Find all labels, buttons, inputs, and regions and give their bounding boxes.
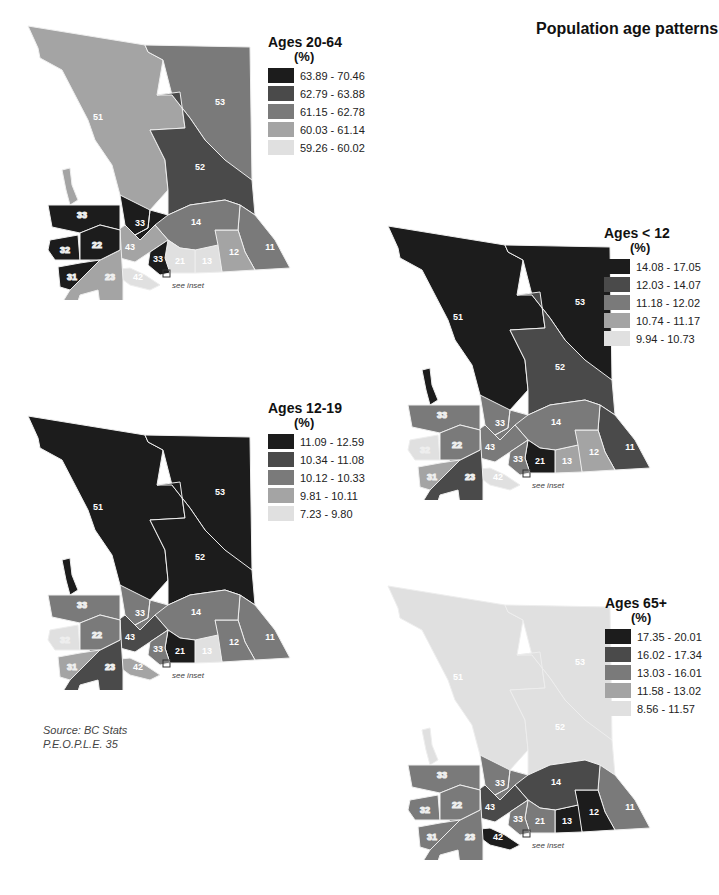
svg-text:21: 21 (535, 816, 545, 826)
legend-label: 12.03 - 14.07 (636, 279, 701, 291)
legend-swatch (605, 701, 631, 716)
svg-text:33: 33 (495, 418, 505, 428)
legend-label: 60.03 - 61.14 (300, 124, 365, 136)
svg-text:12: 12 (229, 637, 239, 647)
svg-text:53: 53 (575, 657, 585, 667)
svg-text:14: 14 (551, 417, 561, 427)
svg-text:23: 23 (465, 472, 475, 482)
legend-swatch (268, 434, 294, 449)
legend-swatch (268, 104, 294, 119)
svg-text:14: 14 (191, 607, 201, 617)
region-51-island (422, 368, 438, 405)
svg-text:33: 33 (135, 608, 145, 618)
legend-unit: (%) (631, 610, 702, 625)
legend-title: Ages 20-64 (268, 34, 365, 50)
legend-item: 8.56 - 11.57 (605, 700, 702, 717)
legend-swatch (268, 86, 294, 101)
legend-label: 63.89 - 70.46 (300, 70, 365, 82)
legend-label: 9.94 - 10.73 (636, 333, 695, 345)
svg-text:32: 32 (420, 445, 430, 455)
legend-unit: (%) (294, 415, 365, 430)
svg-text:see inset: see inset (532, 481, 565, 490)
legend-item: 9.94 - 10.73 (604, 330, 701, 347)
legend-swatch (604, 313, 630, 328)
legend-item: 10.34 - 11.08 (268, 451, 365, 468)
svg-text:22: 22 (92, 630, 102, 640)
svg-text:31: 31 (67, 662, 77, 672)
svg-text:13: 13 (202, 646, 212, 656)
svg-text:22: 22 (452, 440, 462, 450)
legend-title: Ages 12-19 (268, 400, 365, 416)
legend-label: 8.56 - 11.57 (637, 703, 695, 715)
svg-text:32: 32 (420, 805, 430, 815)
legend-swatch (268, 488, 294, 503)
legend-label: 62.79 - 63.88 (300, 88, 365, 100)
svg-text:12: 12 (589, 447, 599, 457)
svg-text:42: 42 (133, 272, 143, 282)
svg-text:43: 43 (125, 632, 135, 642)
legend-ages-20-64: Ages 20-64 (%) 63.89 - 70.4662.79 - 63.8… (268, 34, 365, 157)
legend-item: 14.08 - 17.05 (604, 258, 701, 275)
region-51-island (62, 558, 78, 595)
legend-item: 60.03 - 61.14 (268, 121, 365, 138)
svg-text:13: 13 (562, 816, 572, 826)
svg-text:11: 11 (625, 442, 635, 452)
legend-label: 10.34 - 11.08 (300, 454, 364, 466)
legend-label: 11.58 - 13.02 (637, 685, 701, 697)
legend-label: 61.15 - 62.78 (300, 106, 365, 118)
svg-text:33: 33 (153, 254, 163, 264)
legend-label: 9.81 - 10.11 (300, 490, 358, 502)
legend-item: 61.15 - 62.78 (268, 103, 365, 120)
svg-text:13: 13 (202, 256, 212, 266)
svg-text:23: 23 (105, 662, 115, 672)
legend-ages-12-19: Ages 12-19 (%) 11.09 - 12.5910.34 - 11.0… (268, 400, 365, 523)
svg-text:52: 52 (195, 552, 205, 562)
region-51-island (62, 168, 78, 205)
svg-text:21: 21 (535, 456, 545, 466)
svg-text:53: 53 (575, 297, 585, 307)
legend-swatch (268, 470, 294, 485)
legend-label: 16.02 - 17.34 (637, 649, 702, 661)
legend-title: Ages 65+ (605, 595, 702, 611)
legend-ages-65-plus: Ages 65+ (%) 17.35 - 20.0116.02 - 17.341… (605, 595, 702, 718)
svg-text:43: 43 (485, 442, 495, 452)
svg-text:22: 22 (452, 800, 462, 810)
legend-swatch (604, 331, 630, 346)
region-51-island (422, 728, 438, 765)
svg-text:43: 43 (125, 242, 135, 252)
page-title: Population age patterns (536, 20, 718, 38)
svg-text:21: 21 (175, 646, 185, 656)
legend-unit: (%) (294, 49, 365, 64)
legend-swatch (268, 506, 294, 521)
svg-text:22: 22 (92, 240, 102, 250)
legend-swatch (268, 452, 294, 467)
legend-unit: (%) (630, 240, 701, 255)
legend-label: 17.35 - 20.01 (637, 631, 702, 643)
legend-item: 62.79 - 63.88 (268, 85, 365, 102)
svg-text:51: 51 (93, 502, 103, 512)
legend-swatch (604, 295, 630, 310)
svg-text:51: 51 (453, 312, 463, 322)
svg-text:51: 51 (453, 672, 463, 682)
svg-text:42: 42 (493, 472, 503, 482)
legend-item: 59.26 - 60.02 (268, 139, 365, 156)
legend-label: 7.23 - 9.80 (300, 508, 353, 520)
legend-label: 10.74 - 11.17 (636, 315, 700, 327)
svg-text:51: 51 (93, 112, 103, 122)
legend-swatch (268, 140, 294, 155)
svg-text:11: 11 (625, 802, 635, 812)
legend-swatch (605, 647, 631, 662)
svg-text:33: 33 (513, 454, 523, 464)
legend-item: 12.03 - 14.07 (604, 276, 701, 293)
svg-text:31: 31 (427, 472, 437, 482)
svg-text:33: 33 (77, 210, 87, 220)
legend-label: 13.03 - 16.01 (637, 667, 702, 679)
source-line: Source: BC Stats (43, 723, 127, 737)
svg-text:see inset: see inset (172, 281, 205, 290)
svg-text:23: 23 (465, 832, 475, 842)
legend-item: 11.58 - 13.02 (605, 682, 702, 699)
svg-text:33: 33 (495, 778, 505, 788)
svg-text:21: 21 (175, 256, 185, 266)
legend-swatch (605, 665, 631, 680)
svg-text:11: 11 (265, 632, 275, 642)
